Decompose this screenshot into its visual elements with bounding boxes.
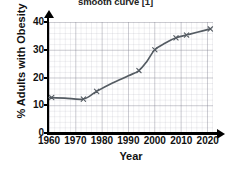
x-tick-label: 2000 <box>144 135 166 146</box>
x-tick-label: 1970 <box>64 135 86 146</box>
x-axis-title: Year <box>49 150 213 162</box>
y-tick-mark <box>44 132 48 134</box>
plot-area-grid <box>49 22 213 133</box>
y-axis-line <box>47 16 49 135</box>
x-tick-label: 1960 <box>38 135 60 146</box>
y-tick-mark <box>44 104 48 106</box>
y-tick-mark <box>44 49 48 51</box>
x-tick-label: 2010 <box>170 135 192 146</box>
x-tick-label: 1990 <box>117 135 139 146</box>
obesity-line-chart-figure: smooth curve [1] 010203040 1960197019801… <box>0 0 231 170</box>
y-tick-mark <box>44 77 48 79</box>
x-axis-tick-labels: 1960197019801990200020102020 <box>0 135 231 149</box>
y-tick-mark <box>44 21 48 23</box>
y-axis-arrow-icon <box>44 10 54 18</box>
x-tick-label: 1980 <box>91 135 113 146</box>
y-axis-title: % Adults with Obesity <box>15 1 27 121</box>
x-tick-label: 2020 <box>197 135 219 146</box>
